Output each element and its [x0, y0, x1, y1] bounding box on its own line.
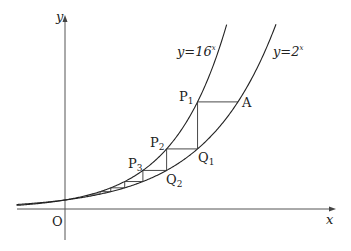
staircase-segments	[92, 102, 238, 196]
point-label-Q1: Q1	[198, 150, 214, 167]
curve-2x-label-text: y=2	[272, 44, 300, 59]
curve-16x-exponent: x	[212, 44, 216, 52]
curve-16x-label-text: y=16	[176, 44, 212, 59]
point-label-A: A	[241, 95, 252, 110]
x-axis-label: x	[326, 212, 334, 227]
point-label-P1: P1	[179, 89, 193, 106]
curve-2-power-x	[17, 24, 276, 204]
origin-label: O	[52, 214, 63, 229]
x-axis-arrow-icon	[329, 207, 336, 212]
y-axis-label: y	[55, 9, 64, 24]
point-label-P3: P3	[128, 156, 143, 173]
curve-2x-label: y=2x	[272, 44, 304, 59]
exponential-staircase-diagram: y x O y=16x y=2x A P1 Q1 P2 Q2 P3	[0, 0, 351, 251]
point-label-Q2: Q2	[166, 172, 182, 189]
point-label-P2: P2	[150, 135, 164, 152]
curve-16x-label: y=16x	[176, 44, 216, 59]
curve-2x-exponent: x	[300, 44, 304, 52]
